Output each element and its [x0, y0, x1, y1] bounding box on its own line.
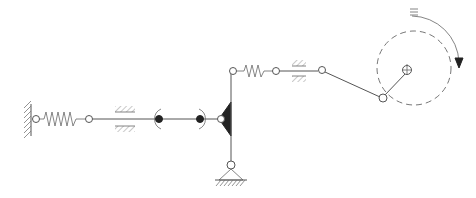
upper-spring: [230, 65, 280, 77]
slider-bearing-left: [155, 109, 163, 129]
connecting-rod: [319, 67, 381, 98]
triangular-rocker: [218, 72, 232, 161]
ground-pivot: [215, 161, 247, 186]
crank: [377, 31, 451, 105]
left-wall-support: [24, 101, 31, 138]
left-spring: [33, 112, 93, 126]
rotation-arrow-icon: [410, 9, 463, 68]
mechanism-diagram: [0, 0, 476, 198]
